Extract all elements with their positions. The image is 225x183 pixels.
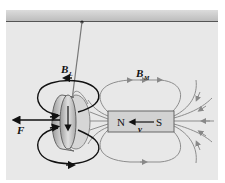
north-pole-label: N — [117, 116, 125, 128]
ceiling-bar — [6, 10, 218, 21]
svg-text:M: M — [143, 75, 150, 81]
south-pole-label: S — [156, 116, 162, 128]
lenz-law-diagram: N S v F B L B M — [0, 0, 225, 183]
svg-text:L: L — [68, 71, 73, 77]
force-label: F — [16, 124, 25, 136]
svg-text:B: B — [135, 67, 143, 79]
svg-text:B: B — [60, 63, 68, 75]
